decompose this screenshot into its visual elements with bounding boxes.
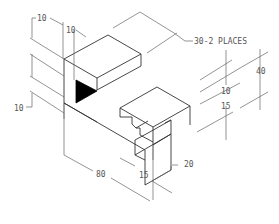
dim-label-top-left-depth: 10: [66, 27, 76, 35]
dim-label-bottom-15: 15: [139, 172, 149, 180]
dim-label-height: 40: [256, 68, 266, 76]
dim-label-slot-height: 15: [221, 103, 231, 111]
dim-label-slot-note: 30-2 PLACES: [194, 38, 247, 46]
dim-label-bottom-20: 20: [184, 161, 194, 169]
dim-label-length: 80: [96, 171, 106, 179]
drawing-lines: [0, 0, 279, 224]
isometric-drawing: 10 10 10 30-2 PLACES 40 10 15 80 15 20: [0, 0, 279, 224]
dim-label-slot-depth: 10: [221, 88, 231, 96]
dim-label-left-offset: 10: [14, 105, 24, 113]
dim-label-top-left-width: 10: [37, 15, 47, 23]
